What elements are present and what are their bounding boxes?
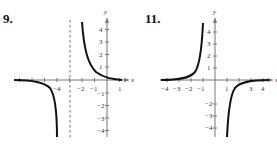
- svg-text:4: 4: [207, 28, 211, 36]
- svg-text:1: 1: [118, 85, 122, 93]
- svg-text:−4: −4: [53, 85, 61, 93]
- svg-text:−1: −1: [197, 85, 205, 93]
- graph-9: x y −4 −2 −1 1 43 21 −1−2 −3−4: [14, 8, 135, 138]
- svg-text:−2: −2: [185, 85, 193, 93]
- svg-text:1: 1: [207, 64, 211, 72]
- svg-text:−3: −3: [97, 115, 105, 123]
- graphs: x y −4 −2 −1 1 43 21 −1−2 −3−4: [0, 0, 277, 144]
- svg-text:2: 2: [99, 51, 103, 59]
- svg-text:3: 3: [207, 40, 211, 48]
- svg-text:−2: −2: [77, 85, 85, 93]
- svg-text:−3: −3: [173, 85, 181, 93]
- svg-text:x: x: [274, 76, 277, 84]
- svg-text:−3: −3: [205, 112, 213, 120]
- svg-text:x: x: [130, 76, 135, 84]
- svg-text:−1: −1: [97, 90, 105, 98]
- graph-11: x y −4−3 −2−1 13 4 43 21 −2−3 −4: [160, 8, 277, 137]
- svg-text:4: 4: [261, 85, 265, 93]
- svg-text:1: 1: [99, 63, 103, 71]
- svg-text:4: 4: [99, 26, 103, 34]
- svg-text:2: 2: [207, 52, 211, 60]
- svg-text:y: y: [103, 8, 108, 16]
- svg-text:−4: −4: [97, 127, 105, 135]
- svg-text:y: y: [212, 8, 217, 16]
- svg-text:1: 1: [225, 85, 229, 93]
- svg-text:3: 3: [249, 85, 253, 93]
- svg-text:−2: −2: [205, 100, 213, 108]
- svg-text:3: 3: [99, 38, 103, 46]
- svg-text:−4: −4: [205, 124, 213, 132]
- svg-text:−2: −2: [97, 102, 105, 110]
- svg-text:−4: −4: [161, 85, 169, 93]
